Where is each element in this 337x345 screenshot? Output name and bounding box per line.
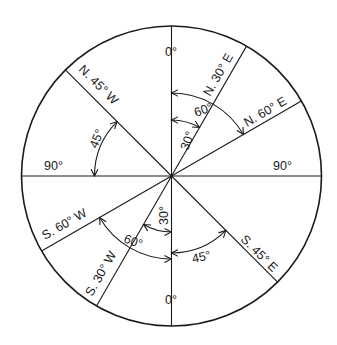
angle-label-sw-60: 60° — [122, 232, 145, 252]
bearing-line-s60w — [42, 176, 172, 251]
angle-label-sw-30: 30° — [157, 206, 171, 225]
arc-ne-30 — [172, 120, 200, 128]
label-east: 90° — [273, 159, 292, 173]
compass-bearing-diagram: 0° 0° 90° 90° N. 30° E N. 60° E N. 45° W… — [0, 0, 337, 345]
label-n45w: N. 45° W — [76, 62, 122, 108]
label-west: 90° — [44, 159, 63, 173]
angle-label-ne-30: 30° — [178, 129, 198, 152]
label-s30w: S. 30° W — [82, 248, 119, 298]
label-s60w: S. 60° W — [40, 206, 90, 243]
angle-label-se-45: 45° — [191, 248, 212, 266]
bearing-line-n45w — [65, 70, 171, 176]
label-n30e: N. 30° E — [200, 51, 235, 98]
bearing-line-s45e — [172, 176, 278, 282]
label-s45e: S. 45° E — [238, 232, 280, 274]
label-south: 0° — [165, 293, 177, 307]
angle-label-nw-45: 45° — [87, 127, 107, 150]
label-north: 0° — [165, 45, 177, 59]
